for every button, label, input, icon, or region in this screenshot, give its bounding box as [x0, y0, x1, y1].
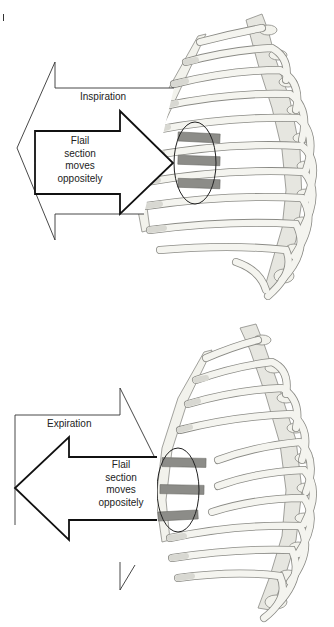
- expiration-panel: Expiration Flail section moves oppositel…: [0, 300, 334, 627]
- flail-label-line: Flail: [44, 135, 116, 148]
- flail-label-line: oppositely: [44, 173, 116, 186]
- rib-cage-expiration: [0, 300, 334, 627]
- flail-label-line: Flail: [85, 459, 157, 472]
- flail-label-line: section: [85, 472, 157, 485]
- flail-label-line: moves: [44, 160, 116, 173]
- flail-label-line: moves: [85, 484, 157, 497]
- flail-label-line: section: [44, 148, 116, 161]
- inspiration-label: Inspiration: [80, 91, 150, 104]
- flail-label-expiration: Flail section moves oppositely: [85, 459, 157, 509]
- flail-label-inspiration: Flail section moves oppositely: [44, 135, 116, 185]
- expiration-label: Expiration: [47, 418, 117, 431]
- flail-label-line: oppositely: [85, 497, 157, 510]
- inspiration-panel: Inspiration Flail section moves opposite…: [0, 0, 334, 300]
